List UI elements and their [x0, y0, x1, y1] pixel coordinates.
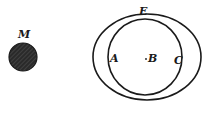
mass-sphere [9, 43, 37, 71]
label-a: A [109, 52, 119, 65]
label-c: C [174, 54, 183, 67]
label-m: M [17, 28, 31, 41]
label-b: B [147, 52, 157, 65]
label-e: E [138, 5, 148, 18]
inner-circle [108, 19, 182, 95]
diagram-canvas: M E A B C [0, 0, 209, 114]
center-point [145, 58, 147, 60]
